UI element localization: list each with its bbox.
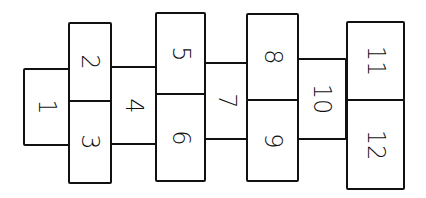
square-number: 8 [261,49,285,64]
hopscotch-square-6: 6 [155,93,206,182]
square-number: 7 [215,93,239,108]
square-number: 1 [35,99,59,114]
hopscotch-square-10: 10 [297,58,347,140]
hopscotch-square-11: 11 [346,21,405,101]
square-number: 3 [78,134,102,149]
hopscotch-square-3: 3 [68,100,112,184]
hopscotch-square-1: 1 [23,68,70,146]
hopscotch-square-8: 8 [246,13,299,101]
hopscotch-square-2: 2 [68,22,112,102]
square-number: 10 [310,84,334,115]
square-number: 11 [364,46,388,77]
square-number: 2 [78,54,102,69]
hopscotch-diagram: 123456789101112 [0,0,426,198]
hopscotch-square-7: 7 [204,62,250,140]
hopscotch-square-5: 5 [155,12,206,95]
hopscotch-square-4: 4 [110,66,157,145]
square-number: 4 [122,98,146,113]
square-number: 12 [364,129,388,160]
hopscotch-square-9: 9 [246,99,299,182]
square-number: 5 [169,46,193,61]
square-number: 6 [169,130,193,145]
hopscotch-square-12: 12 [346,99,405,190]
square-number: 9 [261,133,285,148]
